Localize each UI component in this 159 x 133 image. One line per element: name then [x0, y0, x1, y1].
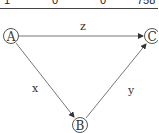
- node-a: A: [4, 29, 19, 44]
- edge-label-z: z: [80, 20, 86, 33]
- node-label-b: B: [76, 119, 85, 133]
- graph-diagram: z x y A B C: [0, 0, 158, 133]
- node-c: C: [145, 29, 159, 44]
- node-label-c: C: [147, 30, 156, 44]
- node-b: B: [73, 118, 88, 133]
- edge-label-y: y: [127, 84, 135, 97]
- edge-label-x: x: [32, 82, 39, 95]
- edge-a-to-b: x: [16, 43, 74, 117]
- node-label-a: A: [6, 30, 16, 44]
- edge-a-to-c: z: [19, 20, 143, 36]
- edge-b-to-c: y: [86, 44, 146, 118]
